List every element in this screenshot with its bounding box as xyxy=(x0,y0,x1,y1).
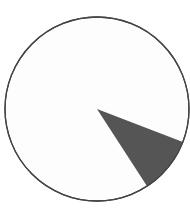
pie-chart xyxy=(0,0,190,210)
